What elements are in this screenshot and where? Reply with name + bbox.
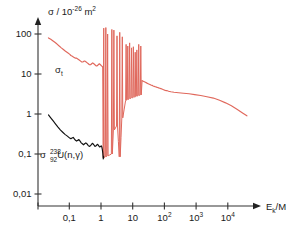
y-tick-label: 1 [26, 108, 31, 119]
chart-container: 1001010,10,010,1110102103104σ / 10-26 m2… [0, 0, 286, 236]
x-tick-label: 1 [98, 212, 103, 223]
x-tick-label: 10 [127, 212, 138, 223]
y-axis-title: σ / 10-26 m2 [48, 5, 96, 17]
y-tick-label: 0,1 [18, 148, 31, 159]
x-tick-label: 0,1 [63, 212, 76, 223]
cross-section-log-log-plot: 1001010,10,010,1110102103104σ / 10-26 m2… [0, 0, 286, 236]
plot-background [0, 0, 286, 236]
y-tick-label: 0,01 [13, 188, 32, 199]
y-tick-label: 100 [16, 28, 32, 39]
y-tick-label: 10 [21, 68, 32, 79]
